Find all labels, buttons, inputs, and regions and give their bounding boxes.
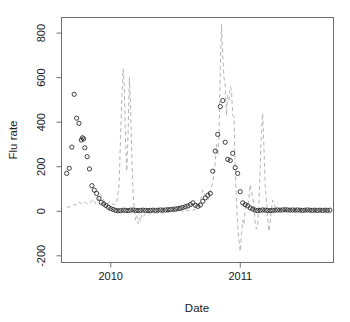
y-tick-label-4: 600	[35, 68, 47, 86]
x-tick-label-0: 2010	[98, 270, 122, 282]
y-tick-label-0: -200	[35, 245, 47, 267]
y-axis-title: Flu rate	[7, 121, 19, 160]
y-tick-label-2: 200	[35, 158, 47, 176]
x-tick-label-1: 2011	[228, 270, 252, 282]
y-tick-label-3: 400	[35, 113, 47, 131]
x-axis-title: Date	[185, 302, 209, 314]
y-tick-label-1: 0	[35, 208, 47, 214]
flu-rate-plot: -200020040060080020102011 Date Flu rate	[0, 0, 350, 322]
figure-background	[0, 0, 350, 322]
y-tick-label-5: 800	[35, 24, 47, 42]
flu-rate-chart-figure: -200020040060080020102011 Date Flu rate	[0, 0, 350, 322]
